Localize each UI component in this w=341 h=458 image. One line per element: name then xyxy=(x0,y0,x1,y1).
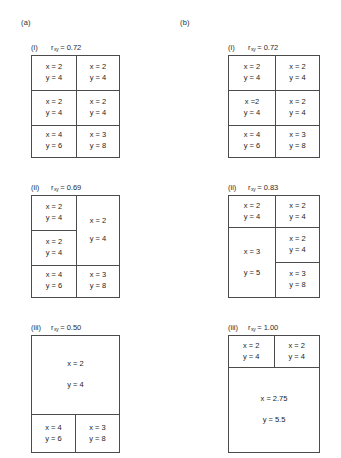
figure-b-iii-label: (iii) rxy= 1.00 xyxy=(228,320,278,332)
figure-a-iii-value: 0.50 xyxy=(67,323,82,332)
cell-y-value: y = 4 xyxy=(289,352,305,363)
figure-a-ii-value: 0.69 xyxy=(67,183,82,192)
cell-y-value: y = 6 xyxy=(46,141,62,152)
cell-y-value: y = 8 xyxy=(90,281,106,292)
cell-y-value: y = 4 xyxy=(289,245,305,256)
grid-cell: x = 2 y = 4 xyxy=(229,56,275,90)
cell-x-value: x = 2 xyxy=(244,62,260,73)
grid-a-iii: x = 2 y = 4 x = 4 y = 6 x = 3 y = 8 xyxy=(31,335,120,453)
cell-x-value: x = 2.75 xyxy=(261,394,288,405)
cell-y-value: y = 4 xyxy=(67,380,83,391)
grid-cell: x = 4 y = 6 xyxy=(229,125,275,157)
grid-b-i-col-left: x = 2 y = 4 x =2 y = 4 x = 4 y = 6 xyxy=(229,56,275,157)
figure-a-ii-rstat: rxy= 0.69 xyxy=(51,183,81,192)
grid-cell-merged: x = 2 y = 4 xyxy=(32,336,119,414)
grid-b-iii-row-merged: x = 2.75 y = 5.5 xyxy=(229,367,319,452)
cell-y-value: y = 8 xyxy=(90,141,106,152)
cell-x-value: x = 2 xyxy=(46,62,62,73)
cell-x-value: x = 4 xyxy=(46,270,62,281)
cell-y-value: y = 6 xyxy=(244,141,260,152)
cell-y-value: y = 8 xyxy=(89,434,105,445)
grid-b-iii-row-top: x = 2 y = 4 x = 2 y = 4 xyxy=(229,336,319,367)
cell-y-value: y = 4 xyxy=(289,108,305,119)
cell-y-value: y = 5.5 xyxy=(263,415,286,426)
grid-b-ii-col-left: x = 2 y = 4 x = 3 y = 5 xyxy=(229,196,275,297)
figure-a-i-roman: (i) xyxy=(31,43,48,52)
figure-page: (a) (b) (i) rxy= 0.72 x = 2 y = 4 x = 2 … xyxy=(0,0,341,458)
equals-sign: = xyxy=(59,183,67,192)
figure-b-ii-rstat: rxy= 0.83 xyxy=(248,183,278,192)
grid-cell: x = 2 y = 4 xyxy=(32,56,76,90)
grid-b-ii-col-right: x = 2 y = 4 x = 2 y = 4 x = 3 y = 8 xyxy=(275,196,319,297)
figure-b-ii-value: 0.83 xyxy=(264,183,279,192)
cell-y-value: y = 4 xyxy=(46,73,62,84)
grid-cell: x =2 y = 4 xyxy=(229,90,275,124)
figure-a-i-label: (i) rxy= 0.72 xyxy=(31,40,81,52)
r-subscript: xy xyxy=(251,186,256,192)
cell-y-value: y = 4 xyxy=(289,73,305,84)
r-subscript: xy xyxy=(251,46,256,52)
cell-x-value: x = 2 xyxy=(90,216,106,227)
grid-cell-merged: x = 2.75 y = 5.5 xyxy=(229,368,319,452)
r-subscript: xy xyxy=(54,186,59,192)
cell-y-value: y = 4 xyxy=(90,108,106,119)
cell-x-value: x = 3 xyxy=(289,130,305,141)
grid-a-ii: x = 2 y = 4 x = 2 y = 4 x = 4 y = 6 x = … xyxy=(31,195,120,298)
cell-x-value: x = 2 xyxy=(289,201,305,212)
cell-x-value: x =2 xyxy=(245,97,259,108)
grid-cell: x = 2 y = 4 xyxy=(229,196,275,227)
cell-y-value: y = 4 xyxy=(46,213,62,224)
cell-x-value: x = 2 xyxy=(90,62,106,73)
grid-a-i: x = 2 y = 4 x = 2 y = 4 x = 4 y = 6 x = … xyxy=(31,55,120,158)
grid-cell: x = 4 y = 6 xyxy=(32,265,76,297)
grid-cell: x = 3 y = 8 xyxy=(75,415,119,452)
figure-a-ii-label: (ii) rxy= 0.69 xyxy=(31,180,81,192)
cell-y-value: y = 4 xyxy=(289,212,305,223)
grid-cell-merged: x = 2 y = 4 xyxy=(77,196,119,265)
cell-x-value: x = 2 xyxy=(244,201,260,212)
grid-cell: x = 2 y = 4 xyxy=(276,90,319,124)
grid-cell: x = 4 y = 6 xyxy=(32,415,75,452)
grid-cell: x = 3 y = 8 xyxy=(77,125,119,157)
figure-a-iii-rstat: rxy= 0.50 xyxy=(51,323,81,332)
cell-y-value: y = 4 xyxy=(244,73,260,84)
cell-y-value: y = 4 xyxy=(243,352,259,363)
figure-b-i-label: (i) rxy= 0.72 xyxy=(228,40,278,52)
cell-x-value: x = 3 xyxy=(90,130,106,141)
r-subscript: xy xyxy=(54,326,59,332)
grid-cell: x = 2 y = 4 xyxy=(276,227,319,262)
cell-x-value: x = 2 xyxy=(90,97,106,108)
grid-cell: x = 3 y = 8 xyxy=(276,262,319,297)
cell-x-value: x = 3 xyxy=(90,270,106,281)
figure-b-iii-rstat: rxy= 1.00 xyxy=(248,323,278,332)
grid-b-ii: x = 2 y = 4 x = 3 y = 5 x = 2 y = 4 x = … xyxy=(228,195,320,298)
equals-sign: = xyxy=(256,43,264,52)
grid-cell: x = 2 y = 4 xyxy=(32,196,76,230)
cell-y-value: y = 5 xyxy=(244,268,260,279)
cell-y-value: y = 4 xyxy=(46,248,62,259)
cell-x-value: x = 2 xyxy=(46,237,62,248)
cell-x-value: x = 2 xyxy=(289,341,305,352)
grid-a-iii-row-merged: x = 2 y = 4 xyxy=(32,336,119,414)
grid-a-i-col-left: x = 2 y = 4 x = 2 y = 4 x = 4 y = 6 xyxy=(32,56,76,157)
cell-x-value: x = 2 xyxy=(46,202,62,213)
equals-sign: = xyxy=(256,323,264,332)
cell-y-value: y = 4 xyxy=(46,108,62,119)
grid-b-i-col-right: x = 2 y = 4 x = 2 y = 4 x = 3 y = 8 xyxy=(275,56,319,157)
figure-b-i-rstat: rxy= 0.72 xyxy=(248,43,278,52)
grid-a-i-col-right: x = 2 y = 4 x = 2 y = 4 x = 3 y = 8 xyxy=(76,56,119,157)
figure-b-i-value: 0.72 xyxy=(264,43,279,52)
cell-x-value: x = 4 xyxy=(46,130,62,141)
panel-label-b: (b) xyxy=(180,18,190,27)
cell-x-value: x = 3 xyxy=(89,423,105,434)
equals-sign: = xyxy=(59,323,67,332)
grid-cell: x = 2 y = 4 xyxy=(229,336,274,367)
cell-x-value: x = 2 xyxy=(46,97,62,108)
grid-cell: x = 2 y = 4 xyxy=(276,56,319,90)
grid-a-ii-col-right: x = 2 y = 4 x = 3 y = 8 xyxy=(76,196,119,297)
cell-x-value: x = 4 xyxy=(45,423,61,434)
cell-x-value: x = 3 xyxy=(289,269,305,280)
cell-y-value: y = 8 xyxy=(289,141,305,152)
r-subscript: xy xyxy=(251,326,256,332)
cell-x-value: x = 2 xyxy=(289,62,305,73)
